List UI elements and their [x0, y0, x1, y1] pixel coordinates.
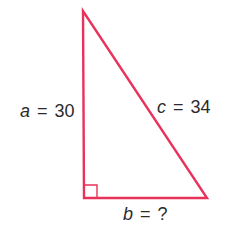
- label-c: c = 34: [157, 97, 211, 117]
- label-b: b = ?: [123, 204, 168, 224]
- right-angle-marker: [84, 185, 97, 198]
- triangle-diagram: a = 30 c = 34 b = ?: [0, 0, 228, 237]
- label-a: a = 30: [20, 101, 75, 121]
